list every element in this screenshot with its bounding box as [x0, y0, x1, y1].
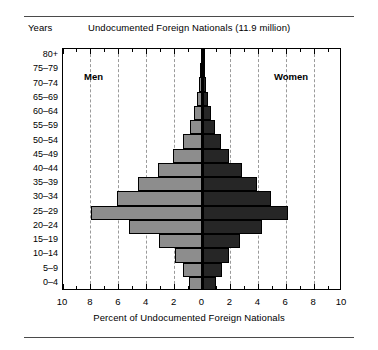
axis-tick — [90, 49, 91, 54]
y-axis-tick-label: 55–59 — [22, 120, 58, 130]
y-axis-tick-label: 5–9 — [22, 263, 58, 273]
axis-tick — [188, 286, 189, 289]
bar-male — [173, 149, 202, 163]
bar-female — [203, 263, 223, 277]
gridline — [286, 49, 287, 289]
axis-tick — [216, 49, 217, 52]
bar-male — [158, 163, 203, 177]
axis-tick — [230, 284, 231, 289]
axis-tick — [258, 284, 259, 289]
bar-female — [203, 177, 257, 191]
y-axis-tick-label: 70–74 — [22, 78, 58, 88]
axis-tick — [160, 286, 161, 289]
y-axis-tick-label: 30–34 — [22, 191, 58, 201]
series-label-men: Men — [84, 71, 103, 82]
gridline — [314, 49, 315, 289]
bar-female — [203, 277, 217, 289]
gridline — [146, 49, 147, 289]
axis-tick — [174, 284, 175, 289]
axis-tick — [328, 286, 329, 289]
axis-tick — [244, 286, 245, 289]
y-axis-tick-label: 35–39 — [22, 177, 58, 187]
center-axis-line — [202, 49, 204, 289]
bottom-rule — [24, 337, 354, 338]
bar-male — [189, 277, 203, 289]
plot-area — [62, 48, 341, 290]
axis-tick — [160, 49, 161, 52]
axis-tick — [146, 284, 147, 289]
y-axis-tick-label: 20–24 — [22, 220, 58, 230]
gridline — [118, 49, 119, 289]
x-axis-tick-label: 0 — [191, 296, 213, 307]
axis-tick — [230, 49, 231, 54]
x-axis-tick-label: 10 — [330, 296, 352, 307]
bar-female — [203, 149, 230, 163]
x-axis-tick-label: 4 — [246, 296, 268, 307]
bar-male — [183, 263, 203, 277]
bar-female — [203, 220, 263, 234]
axis-tick — [104, 49, 105, 52]
axis-tick — [300, 49, 301, 52]
axis-tick — [118, 49, 119, 54]
axis-tick — [63, 49, 64, 54]
bar-male — [159, 234, 202, 248]
bar-male — [117, 191, 202, 205]
x-axis-title: Percent of Undocumented Foreign National… — [0, 312, 378, 323]
bar-female — [203, 206, 288, 220]
axis-tick — [90, 284, 91, 289]
x-axis-tick-label: 2 — [163, 296, 185, 307]
axis-tick — [132, 49, 133, 52]
y-axis-tick-label: 10–14 — [22, 248, 58, 258]
population-pyramid-figure: Years Undocumented Foreign Nationals (11… — [0, 0, 378, 350]
axis-tick — [104, 286, 105, 289]
x-axis-tick-label: 8 — [79, 296, 101, 307]
years-header-label: Years — [28, 22, 52, 33]
axis-tick — [63, 284, 64, 289]
y-axis-tick-label: 50–54 — [22, 135, 58, 145]
axis-tick — [202, 284, 203, 289]
axis-tick — [146, 49, 147, 54]
bar-male — [138, 177, 202, 191]
y-axis-tick-label: 60–64 — [22, 106, 58, 116]
bar-female — [203, 106, 211, 120]
bar-male — [183, 134, 203, 148]
plot-inner — [63, 49, 340, 289]
axis-tick — [286, 49, 287, 54]
bar-female — [203, 134, 221, 148]
gridline — [90, 49, 91, 289]
axis-tick — [76, 49, 77, 52]
axis-tick — [216, 286, 217, 289]
bar-male — [129, 220, 203, 234]
axis-tick — [132, 286, 133, 289]
axis-tick — [328, 49, 329, 52]
axis-tick — [314, 284, 315, 289]
y-axis-tick-label: 40–44 — [22, 163, 58, 173]
axis-tick — [258, 49, 259, 54]
y-axis-tick-label: 25–29 — [22, 206, 58, 216]
bar-male — [91, 206, 203, 220]
axis-tick — [118, 284, 119, 289]
axis-tick — [76, 286, 77, 289]
axis-tick — [188, 49, 189, 52]
axis-tick — [202, 49, 203, 54]
axis-tick — [314, 49, 315, 54]
y-axis-tick-label: 75–79 — [22, 63, 58, 73]
axis-tick — [174, 49, 175, 54]
top-rule — [24, 16, 354, 17]
axis-tick — [244, 49, 245, 52]
bar-male — [175, 248, 203, 262]
axis-tick — [272, 286, 273, 289]
axis-tick — [300, 286, 301, 289]
gridline — [258, 49, 259, 289]
y-axis-tick-label: 0–4 — [22, 277, 58, 287]
x-axis-tick-label: 2 — [218, 296, 240, 307]
bar-female — [203, 163, 242, 177]
bar-female — [203, 120, 216, 134]
x-axis-tick-label: 6 — [274, 296, 296, 307]
axis-tick — [286, 284, 287, 289]
y-axis-tick-label: 45–49 — [22, 149, 58, 159]
x-axis-tick-label: 6 — [107, 296, 129, 307]
series-label-women: Women — [274, 71, 308, 82]
y-axis-tick-label: 80+ — [22, 49, 58, 59]
x-axis-tick-label: 4 — [135, 296, 157, 307]
